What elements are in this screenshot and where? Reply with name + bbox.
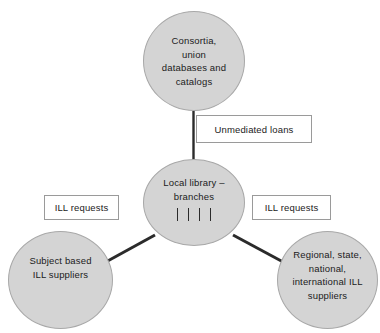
branch-tick-icon xyxy=(199,208,200,221)
edge-label-text: ILL requests xyxy=(265,202,319,213)
edge-label-text: Unmediated loans xyxy=(215,124,294,135)
edge-label-text: ILL requests xyxy=(55,202,109,213)
node-regional-state-national-international-ill-suppliers[interactable]: Regional, state, national, international… xyxy=(277,231,378,329)
node-label: Regional, state, national, international… xyxy=(283,248,371,302)
node-label: Local library – branches xyxy=(154,176,233,203)
edge-local-library-to-subject-suppliers xyxy=(104,235,155,263)
edge-label-ill-requests-left: ILL requests xyxy=(44,195,119,220)
node-label: Subject based ILL suppliers xyxy=(20,254,100,281)
branch-tick-icon xyxy=(210,208,211,221)
edge-label-unmediated-loans: Unmediated loans xyxy=(196,115,312,143)
node-subject-based-ill-suppliers[interactable]: Subject based ILL suppliers xyxy=(8,231,113,329)
node-local-library-branches[interactable]: Local library – branches xyxy=(143,159,245,246)
branch-tick-marks xyxy=(144,208,244,221)
edge-local-library-to-regional-suppliers xyxy=(233,235,285,263)
diagram-canvas: Consortia, union databases and catalogs … xyxy=(0,0,380,333)
branch-tick-icon xyxy=(177,208,178,221)
node-label: Consortia, union databases and catalogs xyxy=(153,34,235,88)
node-consortia-union-databases-catalogs[interactable]: Consortia, union databases and catalogs xyxy=(143,11,245,111)
edge-label-ill-requests-right: ILL requests xyxy=(252,195,331,220)
branch-tick-icon xyxy=(188,208,189,221)
